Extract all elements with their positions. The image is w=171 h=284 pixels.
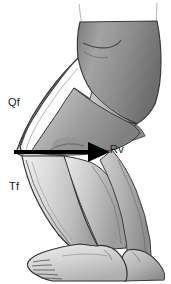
- anatomy-figure: Qf Tf Rv: [0, 0, 171, 284]
- label-quadriceps-force: Qf: [8, 97, 20, 108]
- label-tibiofemoral-force: Tf: [9, 181, 19, 192]
- label-resultant-vector: Rv: [110, 144, 124, 155]
- leg-illustration: [0, 0, 171, 284]
